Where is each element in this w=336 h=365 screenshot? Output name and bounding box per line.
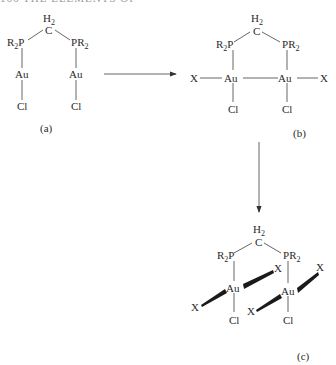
x-ligand-label: X [247,305,255,317]
chloride-left-label: Cl [228,103,238,115]
reaction-diagram: H2 C R2P PR2 Au Au Cl Cl (a) H2 C R2P PR… [0,0,336,365]
chloride-right-label: Cl [71,100,81,112]
chloride-left-label: Cl [17,100,27,112]
x-ligand-label: X [191,301,199,313]
structure-c-label: (c) [297,350,310,363]
chloride-left-label: Cl [229,314,239,326]
structure-a: H2 C R2P PR2 Au Au Cl Cl (a) [7,12,88,135]
pr2-right-label: PR2 [282,38,299,53]
wedge-bond [256,294,282,312]
chloride-right-label: Cl [282,103,292,115]
carbon-label: C [253,25,260,37]
x-ligand-label: X [274,262,282,274]
structure-a-label: (a) [40,122,53,135]
carbon-label: C [45,24,52,36]
gold-right-label: Au [278,72,292,84]
x-ligand-left-label: X [190,72,198,84]
r2p-left-label: R2P [217,249,234,264]
pr2-right-label: PR2 [71,36,88,51]
gold-right-label: Au [69,68,83,80]
wedge-bond [243,270,274,289]
gold-right-label: Au [281,285,295,297]
structure-b-label: (b) [293,127,306,140]
structure-b: H2 C R2P PR2 X Au Au X Cl Cl (b) [190,12,328,140]
wedge-bond [201,289,227,307]
r2p-left-label: R2P [216,38,233,53]
gold-left-label: Au [224,72,238,84]
x-ligand-label: X [316,261,324,273]
pr2-right-label: PR2 [283,249,300,264]
structure-c: H2 C R2P PR2 X X Au Au X X Cl Cl (c) [191,223,324,363]
x-ligand-right-label: X [320,72,328,84]
gold-left-label: Au [15,68,29,80]
carbon-label: C [255,236,262,248]
gold-left-label: Au [226,282,240,294]
wedge-bond [297,272,319,293]
chloride-right-label: Cl [283,314,293,326]
